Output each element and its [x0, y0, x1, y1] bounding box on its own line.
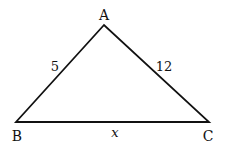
triangle-abc	[16, 25, 209, 122]
vertex-label-a: A	[98, 7, 110, 23]
triangle-diagram: A B C 5 12 x	[0, 0, 228, 151]
side-label-bc: x	[111, 125, 119, 140]
vertex-label-b: B	[12, 128, 22, 144]
side-label-ac: 12	[156, 59, 173, 74]
vertex-label-c: C	[203, 128, 214, 144]
side-label-ab: 5	[51, 59, 59, 74]
